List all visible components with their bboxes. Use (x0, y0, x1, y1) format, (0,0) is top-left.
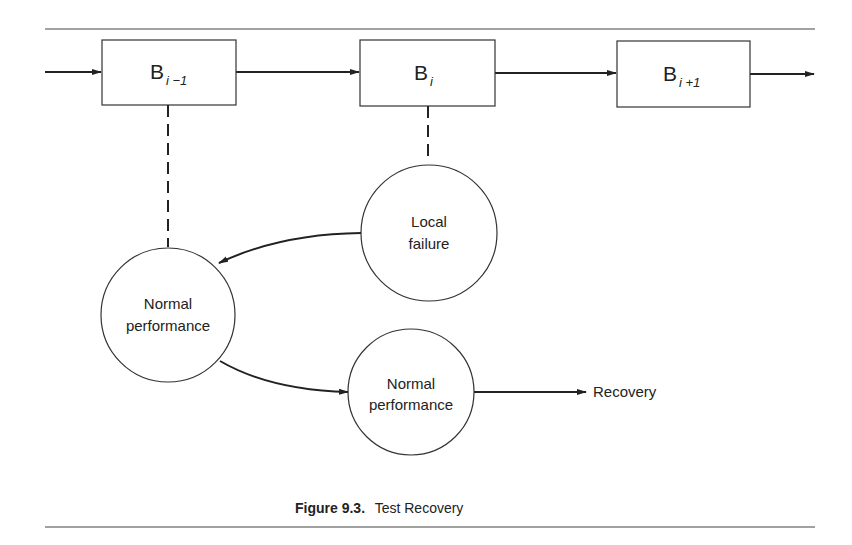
node-local-failure: Local failure (361, 165, 497, 301)
caption-text: Test Recovery (375, 500, 464, 516)
test-recovery-diagram: B i −1 B i B i +1 Normal performance Loc… (0, 0, 852, 545)
block-b-i-plus-1: B i +1 (617, 41, 750, 107)
svg-text:Normal: Normal (387, 375, 435, 392)
svg-text:Local: Local (411, 213, 447, 230)
svg-text:Normal: Normal (144, 295, 192, 312)
block-subscript: i −1 (166, 73, 187, 88)
arrow-local-failure-to-normal (219, 233, 361, 263)
block-label: B (414, 61, 428, 84)
block-b-i-minus-1: B i −1 (102, 40, 236, 105)
block-label: B (150, 60, 164, 83)
caption-label: Figure 9.3. (295, 500, 365, 516)
svg-text:performance: performance (369, 396, 453, 413)
svg-text:failure: failure (409, 235, 450, 252)
block-b-i: B i (360, 40, 495, 106)
recovery-label: Recovery (593, 383, 657, 400)
node-normal-performance-1: Normal performance (101, 248, 235, 382)
block-subscript: i +1 (679, 75, 700, 90)
block-label: B (663, 62, 677, 85)
arrow-normal-to-normal-2 (220, 361, 348, 392)
node-normal-performance-2: Normal performance (348, 329, 474, 455)
figure-caption: Figure 9.3. Test Recovery (295, 500, 463, 516)
svg-text:performance: performance (126, 317, 210, 334)
